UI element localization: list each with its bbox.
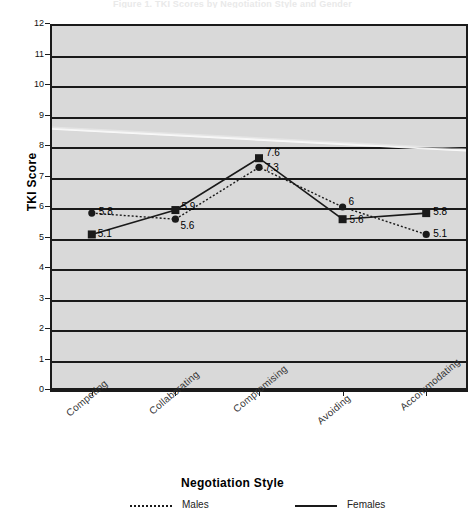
y-axis-tick	[45, 176, 50, 177]
gridline	[52, 361, 466, 363]
gridline	[52, 147, 466, 149]
point-label-males-2: 7.3	[265, 163, 279, 173]
gridline	[52, 86, 466, 88]
y-axis-tick	[45, 23, 50, 24]
y-axis-tick	[45, 237, 50, 238]
y-axis-tick	[45, 145, 50, 146]
x-axis-category-label: Avoiding	[315, 392, 353, 426]
y-axis-tick	[45, 328, 50, 329]
point-label-females-0: 5.1	[98, 229, 112, 239]
y-axis-tick-label: 3	[20, 294, 44, 303]
y-axis-tick	[45, 267, 50, 268]
point-label-females-1: 5.9	[181, 202, 195, 212]
gridline	[52, 208, 466, 210]
y-axis-tick-label: 1	[20, 355, 44, 364]
chart-legend: MalesFemales	[0, 498, 465, 518]
legend-swatch-dotted	[130, 505, 172, 507]
legend-swatch-solid	[295, 505, 337, 507]
legend-label: Females	[347, 499, 385, 510]
y-axis-tick	[45, 54, 50, 55]
x-axis-title: Negotiation Style	[0, 476, 465, 490]
y-axis-tick-label: 10	[20, 80, 44, 89]
gridline	[52, 269, 466, 271]
gridline	[52, 330, 466, 332]
y-axis-tick-label: 9	[20, 111, 44, 120]
point-label-males-3: 6	[349, 197, 355, 207]
gridline	[52, 117, 466, 119]
y-axis-tick	[45, 389, 50, 390]
y-axis-tick-label: 0	[20, 385, 44, 394]
y-axis-tick	[45, 115, 50, 116]
gridline	[52, 56, 466, 58]
y-axis-line	[50, 24, 52, 392]
legend-label: Males	[182, 499, 209, 510]
y-axis-tick	[45, 84, 50, 85]
point-label-females-4: 5.8	[433, 207, 447, 217]
y-axis-tick	[45, 298, 50, 299]
y-axis-tick	[45, 206, 50, 207]
point-label-males-4: 5.1	[433, 229, 447, 239]
y-axis-tick-labels: 0123456789101112	[0, 0, 44, 521]
point-label-males-0: 5.8	[99, 207, 113, 217]
y-axis-tick-label: 11	[20, 50, 44, 59]
point-label-males-1: 5.6	[180, 221, 194, 231]
y-axis-tick-label: 2	[20, 324, 44, 333]
scan-crease-artifact	[52, 26, 466, 388]
point-label-females-2: 7.6	[266, 148, 280, 158]
gridline	[52, 300, 466, 302]
gridline	[52, 178, 466, 180]
y-axis-title: TKI Score	[25, 122, 39, 242]
y-axis-tick	[45, 359, 50, 360]
gridline	[52, 239, 466, 241]
y-axis-tick-label: 4	[20, 263, 44, 272]
y-axis-tick-label: 12	[20, 19, 44, 28]
point-label-females-3: 5.6	[350, 215, 364, 225]
